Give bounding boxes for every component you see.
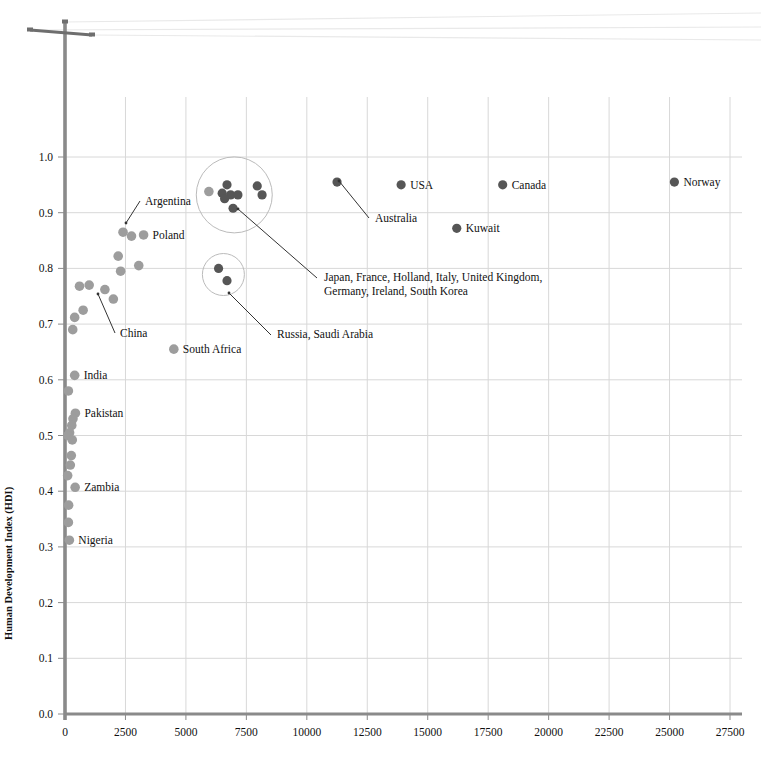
data-point-Nigeria[interactable] — [65, 535, 75, 545]
developed-nations-annotation-leader-tip — [237, 208, 240, 211]
data-point-cluster-b-02[interactable] — [222, 276, 231, 285]
data-point-unlabeled-21[interactable] — [64, 518, 74, 528]
y-tick-label-0.5: 0.5 — [39, 430, 54, 442]
gridlines-group — [65, 97, 742, 714]
point-label-Nigeria: Nigeria — [78, 534, 112, 547]
australia-annotation-line-1: Australia — [375, 212, 417, 224]
point-label-Norway: Norway — [683, 176, 720, 189]
point-label-USA: USA — [410, 179, 434, 191]
resource-nations-annotation-leader — [229, 293, 271, 335]
power-line-3 — [92, 35, 761, 40]
argentina-annotation-line-1: Argentina — [145, 195, 191, 208]
x-tick-label-22500: 22500 — [595, 726, 624, 738]
x-tick-label-17500: 17500 — [474, 726, 503, 738]
x-tick-label-5000: 5000 — [174, 726, 197, 738]
china-annotation-line-1: China — [120, 327, 147, 339]
data-point-unlabeled-20[interactable] — [64, 500, 74, 510]
resource-nations-annotation-line-1: Russia, Saudi Arabia — [277, 328, 373, 341]
resource-nations-annotation-leader-tip — [228, 292, 231, 295]
power-line-2 — [31, 27, 761, 30]
x-tick-label-12500: 12500 — [353, 726, 382, 738]
y-tick-label-0.1: 0.1 — [39, 652, 54, 664]
data-point-China[interactable] — [84, 280, 94, 290]
data-point-unlabeled-07[interactable] — [75, 281, 85, 291]
data-point-cluster-a-02[interactable] — [222, 180, 231, 189]
data-point-unlabeled-11[interactable] — [64, 386, 74, 396]
australia-annotation-leader-tip — [338, 180, 341, 183]
china-annotation-leader-tip — [97, 293, 100, 296]
data-point-India[interactable] — [70, 371, 80, 381]
y-tick-label-0.4: 0.4 — [39, 485, 54, 497]
y-tick-label-0.9: 0.9 — [39, 207, 54, 219]
developed-nations-annotation-line-1: Japan, France, Holland, Italy, United Ki… — [324, 271, 542, 284]
data-point-unlabeled-04[interactable] — [116, 266, 126, 276]
data-point-unlabeled-16[interactable] — [67, 435, 77, 445]
data-point-unlabeled-02[interactable] — [113, 251, 123, 261]
argentina-annotation-leader — [126, 201, 140, 223]
y-axis-ticks-group: 0.00.10.20.30.40.50.60.70.80.91.0 — [39, 151, 65, 720]
point-label-Zambia: Zambia — [84, 481, 119, 493]
data-point-South Africa[interactable] — [169, 344, 179, 354]
cluster-circles-group — [196, 157, 272, 296]
point-label-Kuwait: Kuwait — [466, 222, 501, 234]
x-tick-label-10000: 10000 — [292, 726, 321, 738]
data-point-unlabeled-09[interactable] — [70, 313, 80, 323]
y-tick-label-0.6: 0.6 — [39, 374, 54, 386]
x-tick-label-2500: 2500 — [114, 726, 137, 738]
developed-nations-annotation-leader — [238, 209, 317, 278]
pole-insulator-2 — [27, 28, 33, 32]
data-point-cluster-a-07[interactable] — [228, 204, 237, 213]
point-label-Canada: Canada — [512, 179, 546, 191]
y-tick-label-0.8: 0.8 — [39, 262, 54, 274]
x-tick-label-25000: 25000 — [655, 726, 684, 738]
data-point-Poland[interactable] — [139, 230, 149, 240]
data-point-unlabeled-10[interactable] — [68, 325, 78, 335]
point-label-Poland: Poland — [153, 229, 185, 241]
data-point-Norway[interactable] — [670, 177, 679, 186]
data-point-Zambia[interactable] — [70, 483, 80, 493]
argentina-annotation-leader-tip — [125, 222, 128, 225]
annotations-group: Japan, France, Holland, Italy, United Ki… — [97, 180, 543, 341]
y-tick-label-0: 0.0 — [39, 708, 54, 720]
power-lines-group — [31, 13, 761, 40]
x-tick-label-7500: 7500 — [235, 726, 258, 738]
x-axis-ticks-group: 0250050007500100001250015000175002000022… — [62, 714, 745, 738]
pole-insulator-3 — [89, 33, 95, 37]
chart-canvas: 0250050007500100001250015000175002000022… — [0, 0, 761, 760]
data-point-cluster-a-09[interactable] — [257, 190, 266, 199]
data-point-cluster-a-05[interactable] — [220, 194, 229, 203]
scatter-plot-svg: 0250050007500100001250015000175002000022… — [0, 0, 761, 760]
data-point-unlabeled-08[interactable] — [78, 305, 88, 315]
y-tick-label-0.3: 0.3 — [39, 541, 54, 553]
data-point-Canada[interactable] — [498, 180, 507, 189]
pole-insulator-1 — [62, 20, 68, 24]
point-label-South Africa: South Africa — [183, 343, 241, 355]
data-point-unlabeled-19[interactable] — [63, 471, 73, 481]
data-point-USA[interactable] — [397, 180, 406, 189]
data-point-cluster-b-01[interactable] — [214, 264, 223, 273]
data-point-cluster-a-08[interactable] — [253, 181, 262, 190]
data-point-Argentina[interactable] — [118, 227, 128, 237]
developed-nations-annotation-line-2: Germany, Ireland, South Korea — [324, 285, 468, 298]
y-tick-label-1: 1.0 — [39, 151, 54, 163]
y-tick-label-0.7: 0.7 — [39, 318, 54, 330]
resource-nations-circle — [202, 254, 244, 296]
pole-crossbar — [30, 30, 92, 35]
data-point-unlabeled-18[interactable] — [66, 460, 76, 470]
x-tick-label-15000: 15000 — [413, 726, 442, 738]
data-point-unlabeled-06[interactable] — [109, 294, 119, 304]
point-label-Pakistan: Pakistan — [84, 407, 123, 419]
x-tick-label-0: 0 — [62, 726, 68, 738]
axes-group — [65, 20, 742, 720]
data-point-unlabeled-17[interactable] — [66, 451, 76, 461]
data-point-unlabeled-05[interactable] — [100, 285, 110, 295]
data-point-unlabeled-03[interactable] — [134, 261, 144, 271]
x-tick-label-20000: 20000 — [534, 726, 563, 738]
data-point-cluster-a-01[interactable] — [204, 187, 214, 197]
data-point-cluster-a-06[interactable] — [233, 190, 242, 199]
y-tick-label-0.2: 0.2 — [39, 597, 54, 609]
data-point-unlabeled-01[interactable] — [127, 231, 137, 241]
data-point-Kuwait[interactable] — [452, 224, 461, 233]
x-tick-label-27500: 27500 — [716, 726, 745, 738]
power-line-1 — [65, 13, 761, 22]
